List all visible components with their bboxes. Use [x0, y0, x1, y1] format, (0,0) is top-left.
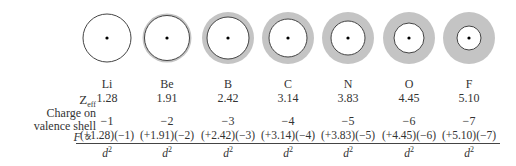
fraction-denominator: d2: [257, 144, 319, 159]
fraction-denominator: d2: [438, 144, 500, 159]
nucleus-icon: [286, 36, 289, 39]
zeff-value: 1.91: [137, 91, 197, 105]
fraction-denominator: d2: [136, 144, 198, 159]
element-symbol: O: [379, 77, 439, 91]
fraction-numerator: (+3.14)(−4): [257, 129, 319, 144]
nucleus-icon: [165, 36, 168, 39]
nucleus-icon: [346, 36, 349, 39]
denominator-exponent: 2: [168, 145, 172, 154]
fraction-numerator: (+3.83)(−5): [317, 129, 379, 144]
fraction-numerator: (+1.91)(−2): [136, 129, 198, 144]
nucleus-icon: [407, 36, 410, 39]
zeff-value: 5.10: [439, 91, 499, 105]
charge-value: −4: [258, 114, 318, 128]
atom-circle-icon: [202, 12, 254, 64]
element-symbol: B: [198, 77, 258, 91]
denominator-exponent: 2: [470, 145, 474, 154]
force-fraction: (+5.10)(−7)d2: [438, 129, 500, 159]
fraction-denominator: d2: [76, 144, 138, 159]
force-fraction: (+2.42)(−3)d2: [197, 129, 259, 159]
fraction-numerator: (+2.42)(−3): [197, 129, 259, 144]
nucleus-icon: [467, 36, 470, 39]
zeff-value: 3.14: [258, 91, 318, 105]
force-fraction: (+3.83)(−5)d2: [317, 129, 379, 159]
atom-li: [81, 12, 133, 64]
force-fraction: (+1.28)(−1)d2: [76, 129, 138, 159]
atom-circle-icon: [81, 12, 133, 64]
element-symbol: F: [439, 77, 499, 91]
nucleus-icon: [226, 36, 229, 39]
atom-c: [262, 12, 314, 64]
atom-circle-icon: [322, 12, 374, 64]
charge-value: −2: [137, 114, 197, 128]
fraction-denominator: d2: [317, 144, 379, 159]
denominator-exponent: 2: [349, 145, 353, 154]
denominator-exponent: 2: [229, 145, 233, 154]
charge-value: −6: [379, 114, 439, 128]
denominator-exponent: 2: [289, 145, 293, 154]
fraction-denominator: d2: [197, 144, 259, 159]
charge-value: −3: [198, 114, 258, 128]
zeff-value: 2.42: [198, 91, 258, 105]
nucleus-icon: [105, 36, 108, 39]
zeff-value: 3.83: [318, 91, 378, 105]
atom-circle-icon: [262, 12, 314, 64]
fraction-numerator: (+4.45)(−6): [378, 129, 440, 144]
zeff-value: 4.45: [379, 91, 439, 105]
element-symbol: N: [318, 77, 378, 91]
fraction-denominator: d2: [378, 144, 440, 159]
zeff-value: 1.28: [77, 91, 137, 105]
force-fraction: (+3.14)(−4)d2: [257, 129, 319, 159]
atom-be: [141, 12, 193, 64]
atom-circle-icon: [383, 12, 435, 64]
atom-o: [383, 12, 435, 64]
force-fraction: (+4.45)(−6)d2: [378, 129, 440, 159]
atom-circle-icon: [141, 12, 193, 64]
atom-b: [202, 12, 254, 64]
charge-value: −7: [439, 114, 499, 128]
denominator-exponent: 2: [108, 145, 112, 154]
atom-circle-icon: [443, 12, 495, 64]
fraction-numerator: (+1.28)(−1): [76, 129, 138, 144]
element-symbol: Be: [137, 77, 197, 91]
force-fraction: (+1.91)(−2)d2: [136, 129, 198, 159]
element-symbol: C: [258, 77, 318, 91]
charge-value: −5: [318, 114, 378, 128]
fraction-numerator: (+5.10)(−7): [438, 129, 500, 144]
atom-f: [443, 12, 495, 64]
charge-value: −1: [77, 114, 137, 128]
element-symbol: Li: [77, 77, 137, 91]
atom-n: [322, 12, 374, 64]
denominator-exponent: 2: [410, 145, 414, 154]
